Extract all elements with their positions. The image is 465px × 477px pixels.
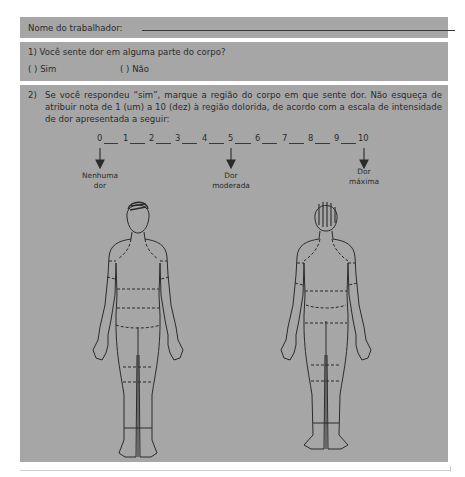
scale-segment xyxy=(235,143,251,144)
scale-tick-1: 1 xyxy=(123,133,128,143)
scale-label-moderate-pain: Dor moderada xyxy=(201,171,261,190)
body-front-diagram[interactable] xyxy=(78,195,198,465)
worker-name-label: Nome do trabalhador: xyxy=(28,22,123,34)
question-2-text-block: 2) Se você respondeu “sim”, marque a reg… xyxy=(28,89,442,126)
worker-name-section: Nome do trabalhador: xyxy=(20,17,448,38)
scale-tick-2: 2 xyxy=(149,133,154,143)
scale-tick-8: 8 xyxy=(308,133,313,143)
label-line: máxima xyxy=(334,177,394,187)
label-line: Nenhuma xyxy=(70,171,130,181)
scale-tick-0: 0 xyxy=(97,133,102,143)
scale-segment xyxy=(182,143,197,144)
label-line: dor xyxy=(70,181,130,191)
bottom-divider xyxy=(20,470,451,471)
scale-tick-5: 5 xyxy=(228,133,233,143)
option-sim-checkbox[interactable]: ( ) Sim xyxy=(28,63,56,75)
pain-scale: 0 1 2 3 4 5 6 7 8 9 10 xyxy=(20,133,448,145)
label-line: Dor xyxy=(334,167,394,177)
scale-segment xyxy=(315,143,330,144)
scale-segment xyxy=(262,143,277,144)
question-2-text: Se você respondeu “sim”, marque a região… xyxy=(45,89,442,126)
scale-tick-4: 4 xyxy=(202,133,207,143)
question-1-text: 1) Você sente dor em alguma parte do cor… xyxy=(28,46,226,58)
scale-tick-7: 7 xyxy=(282,133,287,143)
scale-segment xyxy=(209,143,224,144)
scale-segment xyxy=(289,143,304,144)
question-2-section: 2) Se você respondeu “sim”, marque a reg… xyxy=(20,85,448,462)
bottom-divider-corner xyxy=(450,466,451,472)
worker-name-field[interactable] xyxy=(142,30,455,31)
scale-segment xyxy=(104,143,118,144)
body-back-diagram[interactable] xyxy=(266,195,386,465)
label-line: moderada xyxy=(201,181,261,191)
scale-tick-9: 9 xyxy=(334,133,339,143)
scale-tick-3: 3 xyxy=(175,133,180,143)
option-nao-checkbox[interactable]: ( ) Não xyxy=(120,63,149,75)
scale-label-no-pain: Nenhuma dor xyxy=(70,171,130,190)
scale-segment xyxy=(341,143,356,144)
label-line: Dor xyxy=(201,171,261,181)
scale-tick-10: 10 xyxy=(358,133,369,143)
scale-segment xyxy=(130,143,145,144)
scale-tick-6: 6 xyxy=(255,133,260,143)
scale-segment xyxy=(156,143,171,144)
question-1-section: 1) Você sente dor em alguma parte do cor… xyxy=(20,42,448,81)
question-2-number: 2) xyxy=(28,89,37,101)
scale-label-max-pain: Dor máxima xyxy=(334,167,394,186)
